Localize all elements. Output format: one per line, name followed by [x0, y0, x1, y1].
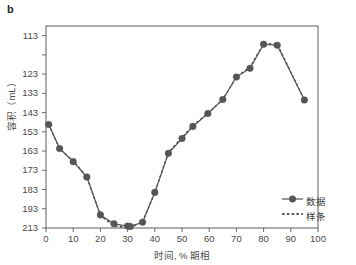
x-tick-label: 70 — [221, 233, 251, 244]
plot-frame — [46, 26, 318, 228]
x-tick-label: 30 — [113, 233, 143, 244]
x-tick-label: 100 — [303, 233, 333, 244]
x-tick-label: 50 — [167, 233, 197, 244]
legend-label-data: 数据 — [306, 194, 326, 208]
chart-figure: b 容积（mL） 213193183173163153143133123113 … — [0, 0, 356, 265]
legend-label-spline: 样条 — [306, 209, 326, 223]
x-tick-label: 40 — [140, 233, 170, 244]
plot-area — [0, 0, 356, 265]
x-tick-label: 10 — [58, 233, 88, 244]
x-tick-label: 20 — [85, 233, 115, 244]
x-tick-label: 80 — [249, 233, 279, 244]
x-tick-label: 90 — [276, 233, 306, 244]
x-tick-label: 60 — [194, 233, 224, 244]
x-tick-label: 0 — [31, 233, 61, 244]
